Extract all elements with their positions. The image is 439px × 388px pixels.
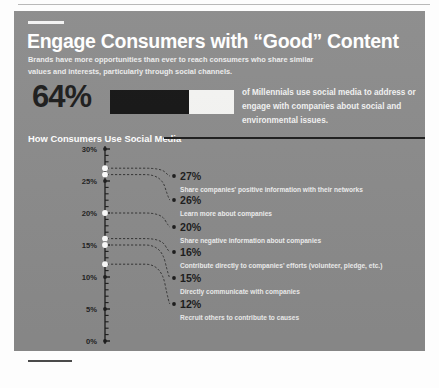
y-axis-tick-label: 15% [63, 241, 97, 250]
infographic-page: Engage Consumers with “Good” Content Bra… [0, 0, 439, 388]
y-axis-tick-label: 20% [63, 209, 97, 218]
data-point-value: 20% [180, 221, 201, 233]
data-point-description: Recruit others to contribute to causes [180, 314, 299, 321]
page-top-rule [18, 4, 430, 5]
data-point-value: 26% [180, 194, 201, 206]
infographic-panel: Engage Consumers with “Good” Content Bra… [14, 11, 425, 351]
data-point-description: Directly communicate with companies [180, 288, 300, 295]
y-axis-tick-label: 30% [63, 145, 97, 154]
data-point-description: Share negative information about compani… [180, 237, 321, 244]
data-point-value: 27% [180, 170, 201, 182]
y-axis-tick-label: 25% [63, 177, 97, 186]
data-point-value: 12% [180, 298, 201, 310]
data-point-value: 16% [180, 246, 201, 258]
data-point-description: Share companies' positive information wi… [180, 186, 363, 193]
y-axis-tick-label: 10% [63, 273, 97, 282]
data-point-description: Contribute directly to companies' effort… [180, 262, 382, 269]
y-axis-tick-label: 5% [63, 305, 97, 314]
y-axis-tick-label: 0% [63, 337, 97, 346]
data-point-description: Learn more about companies [180, 210, 272, 217]
data-point-value: 15% [180, 272, 201, 284]
page-bottom-rule [28, 360, 72, 362]
